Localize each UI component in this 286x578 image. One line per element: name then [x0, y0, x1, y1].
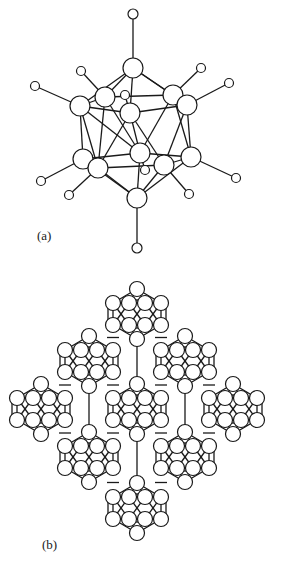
cage-atom — [202, 439, 217, 454]
cage-atom — [122, 296, 137, 311]
cage-atom — [90, 343, 105, 358]
cage-atom — [250, 413, 265, 428]
cage-atom — [106, 490, 121, 505]
cage-atom — [122, 512, 137, 527]
panel-b-label: (b) — [42, 537, 57, 553]
cage-atom — [226, 377, 241, 392]
cage-atom — [42, 391, 57, 406]
cage-atom — [138, 296, 153, 311]
cage-atom — [34, 427, 49, 442]
cage-atom — [138, 512, 153, 527]
cage-atom — [90, 461, 105, 476]
cage-atom — [186, 461, 201, 476]
cage-atom — [26, 413, 41, 428]
cage-atom — [58, 413, 73, 428]
cage-atom — [106, 343, 121, 358]
cage-atom — [178, 475, 193, 490]
cage-atom — [154, 461, 169, 476]
cage-atom — [58, 439, 73, 454]
cage-atom — [234, 391, 249, 406]
cage-atom — [42, 413, 57, 428]
cage-atom — [154, 318, 169, 333]
cage-atom — [202, 391, 217, 406]
cage-atom — [130, 282, 145, 297]
cage-atom — [154, 391, 169, 406]
cage-atom — [122, 413, 137, 428]
cage-atom — [130, 476, 145, 491]
cage-atom — [178, 329, 193, 344]
cage-atom — [250, 391, 265, 406]
cage-atom — [138, 318, 153, 333]
cage-atom — [74, 343, 89, 358]
cage-atom — [154, 343, 169, 358]
cage-atom — [58, 343, 73, 358]
cage-atom — [170, 365, 185, 380]
cage-atom — [154, 512, 169, 527]
cage-atom — [106, 391, 121, 406]
cage-atom — [74, 461, 89, 476]
cage-atom — [138, 490, 153, 505]
cage-atom — [26, 391, 41, 406]
cage-atom — [170, 461, 185, 476]
cage-atom — [122, 490, 137, 505]
cage-atom — [154, 365, 169, 380]
cage-atom — [106, 296, 121, 311]
cage-atom — [10, 391, 25, 406]
cage-atom — [58, 365, 73, 380]
cage-atom — [90, 365, 105, 380]
cage-atom — [154, 413, 169, 428]
cage-atom — [106, 318, 121, 333]
cage-atom — [130, 526, 145, 541]
panel-b-cluster-packing-diagram — [0, 0, 286, 578]
cage-atom — [10, 413, 25, 428]
cage-atom — [170, 343, 185, 358]
cage-atom — [202, 461, 217, 476]
cage-atom — [74, 365, 89, 380]
cage-atom — [58, 461, 73, 476]
cage-atom — [154, 439, 169, 454]
cage-atom — [106, 461, 121, 476]
cage-atom — [202, 413, 217, 428]
cage-atom — [106, 413, 121, 428]
cage-atom — [130, 427, 145, 442]
cage-atom — [138, 391, 153, 406]
cage-atom — [106, 439, 121, 454]
cage-atom — [226, 427, 241, 442]
cage-atom — [154, 490, 169, 505]
cage-atom — [202, 365, 217, 380]
cage-atom — [74, 439, 89, 454]
cage-atom — [130, 377, 145, 392]
cage-atom — [202, 343, 217, 358]
cage-atom — [218, 413, 233, 428]
cage-atom — [82, 379, 97, 394]
cage-atom — [106, 512, 121, 527]
cage-atom — [186, 343, 201, 358]
cage-atom — [170, 439, 185, 454]
cage-atom — [154, 296, 169, 311]
cage-atom — [218, 391, 233, 406]
cage-atom — [82, 329, 97, 344]
cage-atom — [234, 413, 249, 428]
cage-atom — [82, 475, 97, 490]
cage-atom — [90, 439, 105, 454]
panel-a-label: (a) — [37, 228, 51, 244]
cage-atom — [34, 377, 49, 392]
cage-atom — [58, 391, 73, 406]
cage-atom — [122, 391, 137, 406]
panel-b-atoms — [10, 282, 265, 541]
cage-atom — [178, 379, 193, 394]
cage-atom — [186, 365, 201, 380]
cage-atom — [82, 425, 97, 440]
cage-atom — [186, 439, 201, 454]
cage-atom — [106, 365, 121, 380]
cage-atom — [138, 413, 153, 428]
cage-atom — [122, 318, 137, 333]
cage-atom — [130, 332, 145, 347]
cage-atom — [178, 425, 193, 440]
figure: (a) (b) — [0, 0, 286, 578]
